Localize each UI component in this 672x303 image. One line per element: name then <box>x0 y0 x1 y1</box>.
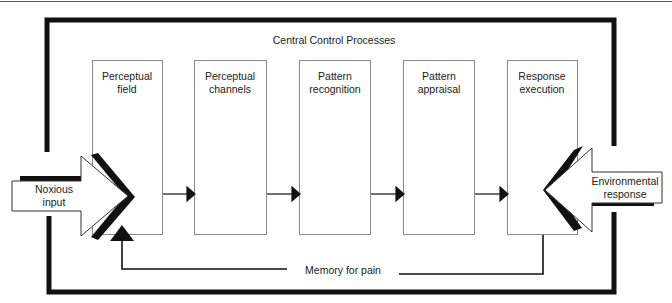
box-label-line: Perceptual <box>91 70 163 83</box>
environmental-response-label: Environmental response <box>583 175 667 201</box>
box-label-line: execution <box>506 83 578 96</box>
noxious-input-label: Noxious input <box>18 183 90 209</box>
box-label-line: field <box>91 83 163 96</box>
box-label-line: recognition <box>299 83 371 96</box>
arrow-label-line: input <box>18 196 90 209</box>
arrow-label-line: response <box>583 188 667 201</box>
box-label-pattern-appraisal: Pattern appraisal <box>403 70 475 96</box>
box-label-line: Perceptual <box>194 70 266 83</box>
diagram-title: Central Control Processes <box>244 34 424 47</box>
arrow-label-line: Noxious <box>18 183 90 196</box>
memory-for-pain-label: Memory for pain <box>288 264 398 277</box>
box-label-line: channels <box>194 83 266 96</box>
box-label-perceptual-channels: Perceptual channels <box>194 70 266 96</box>
arrow-label-line: Environmental <box>583 175 667 188</box>
box-label-response-execution: Response execution <box>506 70 578 96</box>
box-label-line: Pattern <box>299 70 371 83</box>
box-label-line: Pattern <box>403 70 475 83</box>
box-label-line: Response <box>506 70 578 83</box>
box-label-perceptual-field: Perceptual field <box>91 70 163 96</box>
box-label-line: appraisal <box>403 83 475 96</box>
box-label-pattern-recognition: Pattern recognition <box>299 70 371 96</box>
